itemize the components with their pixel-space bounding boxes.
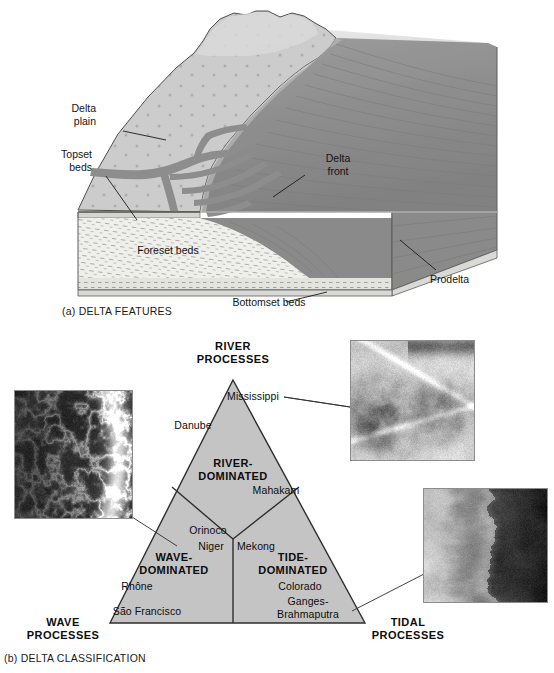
panel-b-delta-classification: RIVER PROCESSES WAVE PROCESSES TIDAL PRO… [0,335,554,673]
zone-label-wave-dominated: WAVE- DOMINATED [124,551,224,577]
river-label-danube: Danube [164,419,222,432]
river-label-rhone: Rhône [113,580,161,593]
corner-label-wave-processes: WAVE PROCESSES [13,616,113,642]
label-delta-front: Delta front [310,152,366,177]
river-label-mississippi: Mississippi [218,390,288,403]
river-label-mekong: Mekong [237,540,289,553]
wave-dominated-delta-photo [14,390,133,519]
river-dominated-delta-photo [350,340,475,461]
caption-panel-a: (a) DELTA FEATURES [62,305,172,317]
tide-dominated-delta-photo [423,488,548,603]
topset-beds-band [78,212,200,218]
river-label-mahakam: Mahakam [244,484,308,497]
label-delta-plain: Delta plain [34,102,96,127]
corner-label-river-processes: RIVER PROCESSES [183,340,283,366]
caption-panel-b: (b) DELTA CLASSIFICATION [4,652,146,664]
zone-label-river-dominated: RIVER- DOMINATED [183,457,283,483]
label-prodelta: Prodelta [430,273,490,286]
corner-label-tidal-processes: TIDAL PROCESSES [358,616,458,642]
zone-label-tide-dominated: TIDE- DOMINATED [243,551,343,577]
label-topset-beds: Topset beds [20,148,92,173]
river-label-ganges-brahmaputra: Ganges- Brahmaputra [272,595,344,621]
label-bottomset-beds: Bottomset beds [214,296,324,309]
river-label-colorado: Colorado [268,580,332,593]
river-label-orinoco: Orinoco [179,524,237,537]
river-label-niger: Niger [189,540,233,553]
label-foreset-beds: Foreset beds [118,244,218,257]
delta-figure: Delta plain Topset beds Foreset beds Bot… [0,0,554,673]
river-label-sao-francisco: São Francisco [102,605,192,618]
panel-a-delta-features: Delta plain Topset beds Foreset beds Bot… [0,0,554,335]
mississippi-leader [284,397,350,407]
